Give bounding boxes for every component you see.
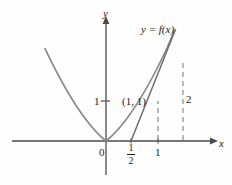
y-tick-label-one: 1 [94,96,100,107]
figure-canvas: y x y = f(x) (1, 1) 1 0 1 2 1 2 [0,0,232,185]
x-tick-label-one: 1 [155,147,161,158]
fraction-denominator: 2 [128,156,135,166]
origin-label: 0 [99,147,105,158]
tangent-line [131,30,176,142]
x-axis-arrow-icon [210,138,218,145]
segment-length-label: 2 [186,94,192,105]
fraction-numerator: 1 [128,143,135,153]
plot-svg [0,0,232,185]
function-curve [45,32,174,142]
y-axis-label: y [103,8,108,19]
function-label: y = f(x) [141,24,174,35]
tangent-point-label: (1, 1) [122,96,146,107]
x-tick-label-half: 1 2 [127,143,135,166]
x-axis-label: x [219,138,224,149]
